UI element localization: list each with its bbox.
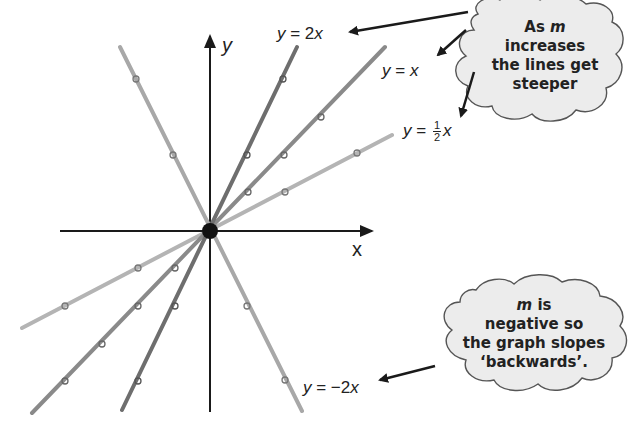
fraction-one-half: 12 [433,120,441,143]
label-y-x: y = x [382,61,418,81]
x-axis-label: x [352,238,362,261]
label-y-half-x: y = 12x [403,120,452,143]
cloud-top-text: As m increases the lines get steeper [470,18,620,94]
arrow-to-y2x [350,12,468,32]
arrow-to-yneg2x [380,366,435,380]
label-y-neg-2x: y = −2x [303,378,359,398]
label-y-2x: y = 2x [277,24,323,44]
cloud-bottom-text: m is negative so the graph slopes ‘backw… [440,296,628,372]
origin-dot [202,223,218,239]
y-axis-label: y [222,34,232,57]
